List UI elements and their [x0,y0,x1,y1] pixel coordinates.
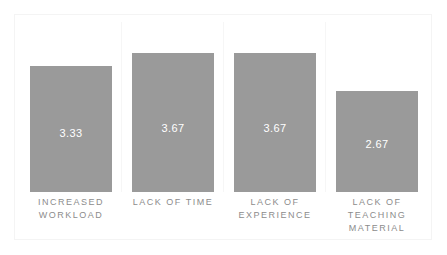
bar-value-label: 2.67 [336,139,418,150]
x-axis-labels: INCREASED WORKLOAD LACK OF TIME LACK OF … [20,196,428,242]
bar-slot: 3.67 [132,22,214,192]
bar-value-label: 3.33 [30,128,112,139]
category-gridline [121,22,122,192]
bar-chart: 3.33 3.67 3.67 2.67 INCREASED WORKLOAD L… [0,0,447,255]
category-gridline [223,22,224,192]
x-axis-label-lack-of-time: LACK OF TIME [122,196,224,209]
bar[interactable]: 2.67 [336,91,418,192]
x-axis-label-lack-of-teaching-material: LACK OF TEACHING MATERIAL [326,196,428,235]
bar-slot: 2.67 [336,22,418,192]
bar-value-label: 3.67 [132,123,214,134]
bar[interactable]: 3.67 [234,53,316,192]
bar-slot: 3.33 [30,22,112,192]
x-axis-label-lack-of-experience: LACK OF EXPERIENCE [224,196,326,222]
bar[interactable]: 3.33 [30,66,112,192]
x-axis-label-increased-workload: INCREASED WORKLOAD [20,196,122,222]
plot-area: 3.33 3.67 3.67 2.67 [20,22,428,192]
category-gridline [325,22,326,192]
bar-slot: 3.67 [234,22,316,192]
bar-value-label: 3.67 [234,123,316,134]
bar[interactable]: 3.67 [132,53,214,192]
